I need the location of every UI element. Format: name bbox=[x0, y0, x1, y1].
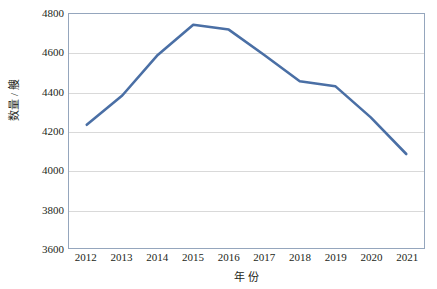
y-axis-tick-label: 4800 bbox=[26, 7, 64, 19]
y-axis-tick-label: 4000 bbox=[26, 164, 64, 176]
x-axis-tick-labels: 2012201320142015201620172018201920202021 bbox=[68, 251, 425, 269]
x-axis-tick-label: 2021 bbox=[385, 251, 429, 263]
y-axis-tick-label: 4200 bbox=[26, 125, 64, 137]
y-axis-title: 数量 / 艘 bbox=[5, 55, 21, 145]
y-axis-tick-label: 4600 bbox=[26, 46, 64, 58]
line-chart: 数量 / 艘 3600380040004200440046004800 2012… bbox=[0, 0, 437, 289]
y-axis-tick-label: 3600 bbox=[26, 243, 64, 255]
y-axis-tick-label: 4400 bbox=[26, 86, 64, 98]
x-axis-title: 年 份 bbox=[68, 268, 425, 284]
series-line-数量 bbox=[87, 25, 407, 154]
plot-area bbox=[68, 13, 425, 249]
series-line-layer bbox=[69, 14, 424, 248]
y-axis-tick-labels: 3600380040004200440046004800 bbox=[26, 0, 64, 289]
y-axis-tick-label: 3800 bbox=[26, 204, 64, 216]
